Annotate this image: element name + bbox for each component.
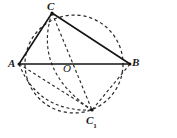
- geometry-figure: C A B O C1: [0, 0, 177, 138]
- segment-A-C1: [19, 64, 92, 110]
- vertex-label-O: O: [63, 63, 71, 74]
- segment-C-C1: [52, 13, 92, 110]
- segment-B-C1: [92, 64, 130, 110]
- vertex-label-C1: C1: [86, 115, 97, 129]
- vertex-dot-C1: [90, 108, 93, 111]
- vertex-label-B: B: [132, 57, 139, 68]
- vertex-label-C1-subscript: 1: [93, 122, 97, 130]
- vertex-dot-A: [18, 63, 21, 66]
- segment-C-B: [52, 13, 130, 64]
- vertex-label-C: C: [47, 1, 54, 12]
- vertex-label-A: A: [8, 58, 15, 69]
- segment-A-C: [19, 13, 52, 64]
